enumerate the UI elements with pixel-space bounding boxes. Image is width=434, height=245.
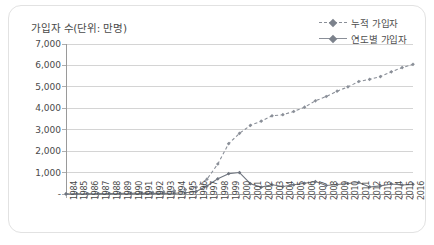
x-axis-tick-label: 1999 [232,181,241,200]
x-axis-tick-label: 1992 [156,181,165,200]
x-axis-tick-label: 2006 [308,181,317,200]
x-axis-tick-label: 2014 [395,181,404,200]
x-axis-tick-label: 2015 [406,181,415,200]
x-axis-labels: 1984198519861987198819891990199119921993… [9,6,426,233]
x-axis-tick-label: 1984 [70,181,79,200]
x-axis-tick-label: 2016 [417,181,426,200]
x-axis-tick-label: 1988 [113,181,122,200]
x-axis-tick-label: 2004 [286,181,295,200]
chart-card: 가입자 수(단위: 만명) 누적 가입자 연도별 가입자 -1,0002,000… [8,5,426,233]
x-axis-tick-label: 1993 [167,181,176,200]
x-axis-tick-label: 2002 [265,181,274,200]
x-axis-tick-label: 2008 [330,181,339,200]
x-axis-tick-label: 1989 [124,181,133,200]
x-axis-tick-label: 2010 [351,181,360,200]
x-axis-tick-label: 2001 [254,181,263,200]
x-axis-tick-label: 1995 [189,181,198,200]
x-axis-tick-label: 1990 [135,181,144,200]
x-axis-tick-label: 1996 [200,181,209,200]
x-axis-tick-label: 1991 [145,181,154,200]
x-axis-tick-label: 2009 [341,181,350,200]
x-axis-tick-label: 1997 [210,181,219,200]
x-axis-tick-label: 2007 [319,181,328,200]
x-axis-tick-label: 2005 [297,181,306,200]
x-axis-tick-label: 1985 [80,181,89,200]
x-axis-tick-label: 2000 [243,181,252,200]
x-axis-tick-label: 1998 [221,181,230,200]
x-axis-tick-label: 1987 [102,181,111,200]
x-axis-tick-label: 1986 [91,181,100,200]
x-axis-tick-label: 2003 [276,181,285,200]
plot-area: -1,0002,0003,0004,0005,0006,0007,000 198… [9,6,426,233]
x-axis-tick-label: 2011 [362,181,371,200]
x-axis-tick-label: 1994 [178,181,187,200]
x-axis-tick-label: 2013 [384,181,393,200]
x-axis-tick-label: 2012 [373,181,382,200]
